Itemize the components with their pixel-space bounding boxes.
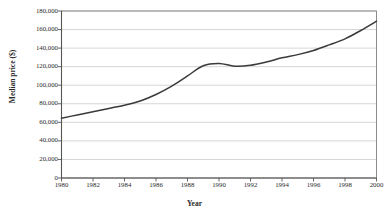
x-axis-title: Year xyxy=(0,199,389,208)
median-price-line-chart: Median price ($) 020,00040,00060,00080,0… xyxy=(0,0,389,220)
plot-frame xyxy=(62,11,377,178)
x-tick-label: 2000 xyxy=(357,182,389,189)
